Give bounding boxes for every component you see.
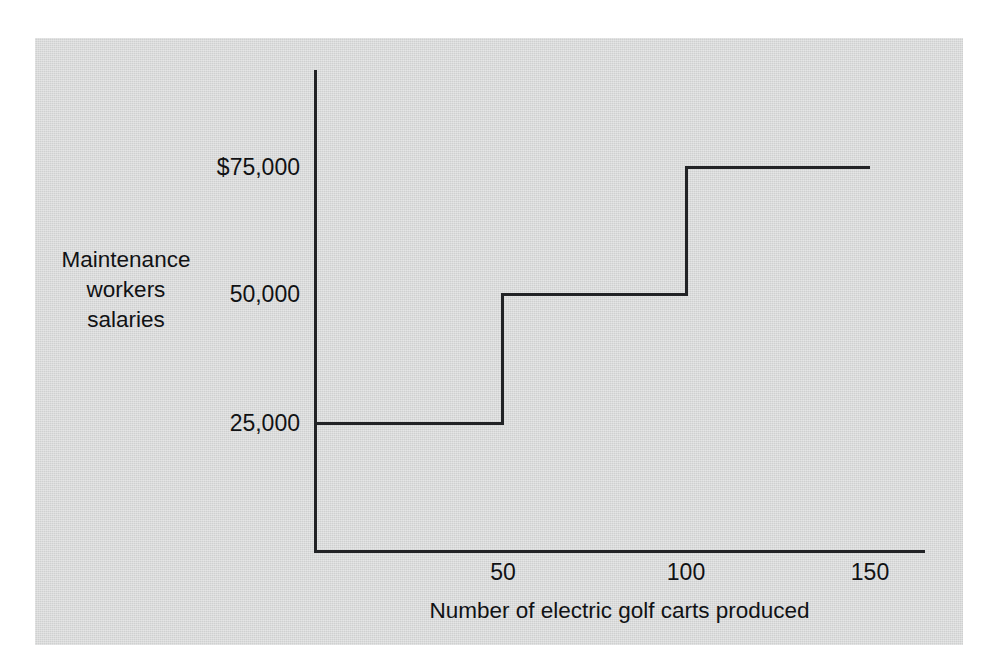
step-segment-50000	[501, 293, 688, 296]
step-riser-at-100	[685, 166, 688, 296]
step-segment-25000	[314, 422, 504, 425]
y-axis-title: Maintenance workers salaries	[35, 245, 217, 335]
y-tick-label-25000: 25,000	[100, 410, 300, 436]
chart-page: $75,000 50,000 25,000 50 100 150 Mainten…	[0, 0, 1001, 671]
x-tick-label-50: 50	[458, 559, 548, 585]
y-axis-line	[314, 70, 317, 553]
step-segment-75000	[685, 166, 870, 169]
x-tick-label-100: 100	[641, 559, 731, 585]
figure-panel	[35, 38, 963, 645]
x-axis-title: Number of electric golf carts produced	[314, 598, 925, 624]
x-tick-label-150: 150	[825, 559, 915, 585]
x-axis-line	[314, 550, 925, 553]
y-tick-label-75000: $75,000	[100, 154, 300, 180]
step-riser-at-50	[501, 293, 504, 425]
